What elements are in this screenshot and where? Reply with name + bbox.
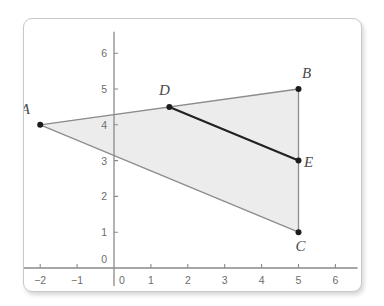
y-tick-label-6: 6 xyxy=(101,47,107,59)
x-tick-label-2: 2 xyxy=(185,274,191,286)
x-tick-label-3: 3 xyxy=(222,274,228,286)
point-label-e: E xyxy=(303,154,313,170)
point-b xyxy=(296,86,302,92)
x-tick-label-5: 5 xyxy=(296,274,302,286)
y-tick-label-3: 3 xyxy=(101,155,107,167)
point-label-d: D xyxy=(158,82,170,98)
point-a xyxy=(37,122,43,128)
x-tick-label--2: −2 xyxy=(34,274,46,286)
y-tick-label-0: 0 xyxy=(101,253,107,265)
point-e xyxy=(296,158,302,164)
x-tick-label-6: 6 xyxy=(332,274,338,286)
x-tick-label-4: 4 xyxy=(259,274,265,286)
x-tick-label-1: 1 xyxy=(148,274,154,286)
x-tick-label--1: −1 xyxy=(71,274,83,286)
point-label-b: B xyxy=(302,65,311,81)
shaded-triangle-layer xyxy=(40,89,298,232)
point-d xyxy=(166,104,172,110)
y-tick-label-4: 4 xyxy=(101,119,107,131)
y-tick-label-1: 1 xyxy=(101,226,107,238)
x-tick-label-0: 0 xyxy=(119,274,125,286)
point-label-c: C xyxy=(295,238,306,254)
shaded-region-triangle-abc xyxy=(40,89,298,232)
coordinate-plane-plot: −2−10123456 0123456 ABCDE xyxy=(24,19,362,292)
point-label-a: A xyxy=(24,101,31,117)
point-c xyxy=(296,229,302,235)
y-tick-label-2: 2 xyxy=(101,190,107,202)
y-tick-label-5: 5 xyxy=(101,83,107,95)
x-axis-ticks: −2−10123456 xyxy=(34,264,338,286)
figure-card: −2−10123456 0123456 ABCDE xyxy=(23,18,362,292)
